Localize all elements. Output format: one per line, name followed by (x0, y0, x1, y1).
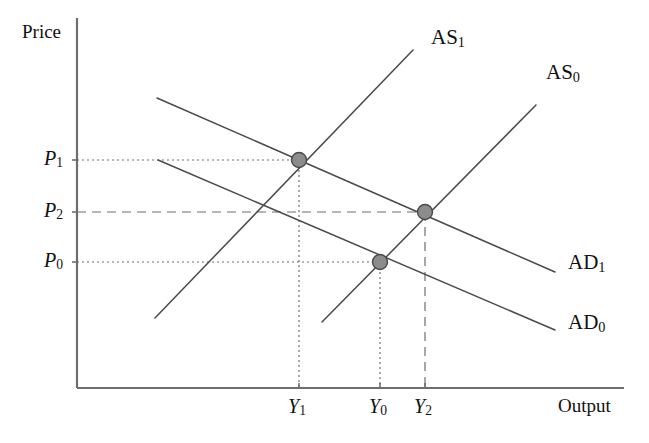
curve-AS1[interactable] (155, 50, 413, 318)
y-tick-label-P2: P2 (44, 200, 63, 222)
curve-label-AD0-subscript: 0 (598, 319, 605, 335)
y-tick-label-P0-text: P (44, 249, 56, 271)
curve-label-AS1-subscript: 1 (458, 34, 465, 50)
x-tick-label-Y0-text: Y (369, 395, 380, 417)
x-tick-label-Y1-subscript: 1 (299, 403, 306, 418)
x-tick-label-Y0-subscript: 0 (380, 403, 387, 418)
x-tick-label-Y2: Y2 (414, 396, 432, 418)
y-axis-label: Price (22, 22, 61, 41)
y-tick-label-P1-subscript: 1 (56, 155, 63, 170)
y-tick-label-P2-subscript: 2 (56, 207, 63, 222)
x-axis-label: Output (558, 396, 611, 415)
equilibrium-P2-Y2[interactable] (418, 205, 433, 220)
y-tick-label-P0: P0 (44, 250, 63, 272)
curve-label-AD1-text: AD (568, 250, 598, 274)
curve-label-AD1-subscript: 1 (598, 259, 605, 275)
x-tick-label-Y1: Y1 (288, 396, 306, 418)
as-ad-diagram: Price Output P1P2P0Y1Y0Y2AS1AS0AD1AD0 (0, 0, 649, 443)
curve-label-AD0-text: AD (568, 310, 598, 334)
curve-label-AS0: AS0 (546, 62, 580, 84)
x-tick-label-Y2-text: Y (414, 395, 425, 417)
y-tick-label-P1-text: P (44, 147, 56, 169)
y-tick-label-P1: P1 (44, 148, 63, 170)
curve-label-AD0: AD0 (568, 312, 605, 334)
curve-label-AS0-subscript: 0 (573, 69, 580, 85)
x-tick-label-Y2-subscript: 2 (425, 403, 432, 418)
curve-label-AS0-text: AS (546, 60, 573, 84)
curve-label-AS1-text: AS (431, 25, 458, 49)
x-tick-label-Y1-text: Y (288, 395, 299, 417)
equilibrium-P1-Y1[interactable] (292, 153, 307, 168)
curve-label-AS1: AS1 (431, 27, 465, 49)
curve-label-AD1: AD1 (568, 252, 605, 274)
x-tick-label-Y0: Y0 (369, 396, 387, 418)
equilibrium-P0-Y0[interactable] (373, 255, 388, 270)
y-tick-label-P0-subscript: 0 (56, 257, 63, 272)
y-tick-label-P2-text: P (44, 199, 56, 221)
